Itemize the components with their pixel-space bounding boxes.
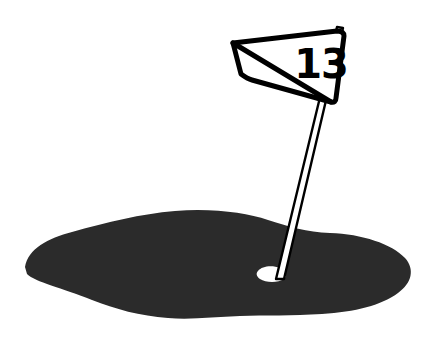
flag-number-label: 13	[294, 41, 348, 87]
illustration-svg: 13	[0, 0, 428, 356]
golf-green-illustration: 13	[0, 0, 428, 356]
